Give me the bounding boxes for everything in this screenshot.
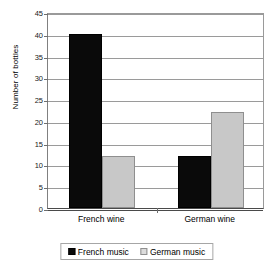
legend-swatch-icon-french-music [68, 248, 75, 255]
bar-french-wine-german-music [102, 156, 135, 208]
legend-item-french-music: French music [68, 247, 129, 257]
plot-area: 051015202530354045 [47, 13, 264, 209]
y-tick-mark-15 [44, 145, 48, 146]
gridline-0 [48, 210, 263, 211]
y-tick-label-5: 5 [39, 184, 43, 192]
y-tick-label-15: 15 [35, 141, 43, 149]
y-tick-label-0: 0 [39, 206, 43, 214]
y-tick-mark-5 [44, 188, 48, 189]
y-tick-mark-30 [44, 79, 48, 80]
y-axis-title: Number of bottles [11, 17, 21, 137]
bar-chart: Number of bottles 051015202530354045 Fre… [0, 0, 273, 270]
bar-french-wine-french-music [69, 34, 102, 208]
y-tick-label-30: 30 [35, 75, 43, 83]
y-tick-mark-35 [44, 58, 48, 59]
bar-german-wine-french-music [178, 156, 211, 208]
y-tick-mark-45 [44, 14, 48, 15]
legend-label-german-music: German music [150, 247, 205, 257]
y-tick-mark-0 [44, 210, 48, 211]
category-label-german-wine: German wine [156, 214, 265, 225]
y-tick-label-10: 10 [35, 162, 43, 170]
legend-item-german-music: German music [140, 247, 205, 257]
bar-german-wine-german-music [211, 112, 244, 208]
y-tick-label-45: 45 [35, 10, 43, 18]
y-tick-mark-10 [44, 166, 48, 167]
category-divider-tick [157, 208, 158, 213]
gridline-45 [48, 14, 263, 15]
y-tick-mark-40 [44, 36, 48, 37]
y-tick-label-40: 40 [35, 32, 43, 40]
legend-swatch-icon-german-music [140, 248, 147, 255]
y-tick-label-35: 35 [35, 54, 43, 62]
y-tick-mark-20 [44, 123, 48, 124]
y-tick-label-25: 25 [35, 97, 43, 105]
category-label-french-wine: French wine [47, 214, 156, 225]
y-tick-label-20: 20 [35, 119, 43, 127]
chart-legend: French music German music [60, 243, 213, 260]
y-tick-mark-25 [44, 101, 48, 102]
legend-label-french-music: French music [78, 247, 129, 257]
